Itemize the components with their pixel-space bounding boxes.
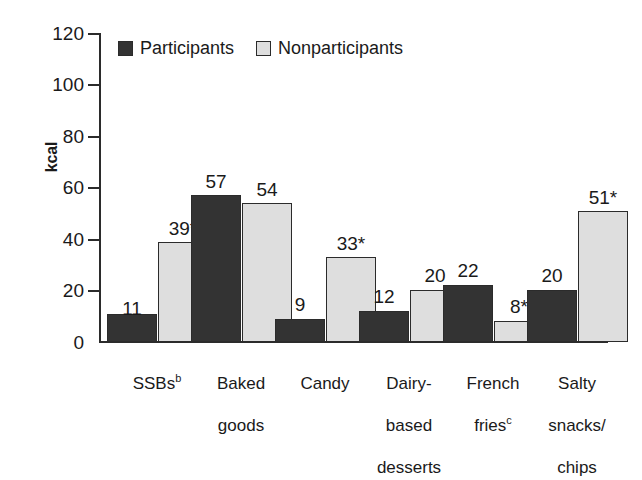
y-tick-label-60: 60 — [24, 178, 84, 197]
bar-value-candy-participants: 9 — [275, 295, 325, 314]
y-tick-label-100: 100 — [24, 75, 84, 94]
y-tick-label-0: 0 — [24, 333, 84, 352]
bar-value-french-fries-participants: 22 — [443, 261, 493, 280]
x-category-salty-snacks-line2: snacks/ — [512, 415, 642, 436]
y-tick-label-40-wrap: 40 — [16, 230, 84, 249]
x-category-ssbs-line1: SSBs — [133, 374, 176, 393]
y-tick-label-120-wrap: 120 — [16, 24, 84, 43]
y-tick-label-20: 20 — [24, 281, 84, 300]
bar-candy-participants — [275, 319, 325, 342]
y-tick-label-80-wrap: 80 — [16, 127, 84, 146]
bar-dairy-desserts-participants — [359, 311, 409, 342]
plot-area: 11 39* 57 54 9 33* 12 20 22 8* 20 51* — [101, 33, 608, 342]
bar-value-salty-snacks-participants: 20 — [527, 266, 577, 285]
x-category-dairy-desserts-line3: desserts — [344, 457, 474, 478]
y-tick-label-40: 40 — [24, 230, 84, 249]
bar-french-fries-participants — [443, 285, 493, 342]
bar-value-ssbs-participants: 11 — [107, 299, 157, 318]
y-tick-label-120: 120 — [24, 24, 84, 43]
x-category-salty-snacks-line3: chips — [512, 457, 642, 478]
bar-salty-snacks-nonparticipants — [578, 211, 628, 342]
bar-value-baked-goods-nonparticipants: 54 — [242, 180, 292, 199]
y-tick-label-0-wrap: 0 — [16, 333, 84, 352]
bar-baked-goods-participants — [191, 195, 241, 342]
y-tick-label-60-wrap: 60 — [16, 178, 84, 197]
bar-value-candy-nonparticipants: 33* — [326, 234, 376, 253]
x-category-baked-goods-line2: goods — [176, 415, 306, 436]
y-tick-label-80: 80 — [24, 127, 84, 146]
bar-value-baked-goods-participants: 57 — [191, 172, 241, 191]
bar-value-salty-snacks-nonparticipants: 51* — [578, 188, 628, 207]
x-category-salty-snacks-line1: Salty — [512, 373, 642, 394]
x-category-label-salty-snacks: Salty snacks/ chips — [512, 352, 642, 480]
y-tick-label-100-wrap: 100 — [16, 75, 84, 94]
bar-salty-snacks-participants — [527, 290, 577, 342]
y-tick-label-20-wrap: 20 — [16, 281, 84, 300]
x-category-french-fries-line2: fries — [474, 416, 506, 435]
x-category-french-fries-footnote: c — [506, 414, 512, 426]
bar-value-dairy-desserts-participants: 12 — [359, 287, 409, 306]
